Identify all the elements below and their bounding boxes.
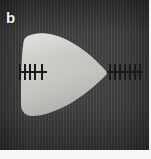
ruler-tick [34,64,36,80]
ruler-tick [119,64,121,80]
ruler-tick [124,64,126,80]
figure-panel-b: b [0,0,151,159]
frame-edge-bottom [0,150,151,159]
right-measurement-ruler [107,64,143,80]
panel-label: b [6,10,15,25]
ruler-tick [19,64,21,80]
ruler-tick [129,64,131,80]
ruler-tick [29,64,31,80]
ruler-tick [114,64,116,80]
frame-edge-right [149,0,151,159]
ruler-tick [41,64,43,80]
ruler-tick [109,64,111,80]
ruler-tick [134,64,136,80]
ruler-tick [139,64,141,80]
ruler-tick [24,64,26,80]
left-measurement-ruler [19,64,47,80]
